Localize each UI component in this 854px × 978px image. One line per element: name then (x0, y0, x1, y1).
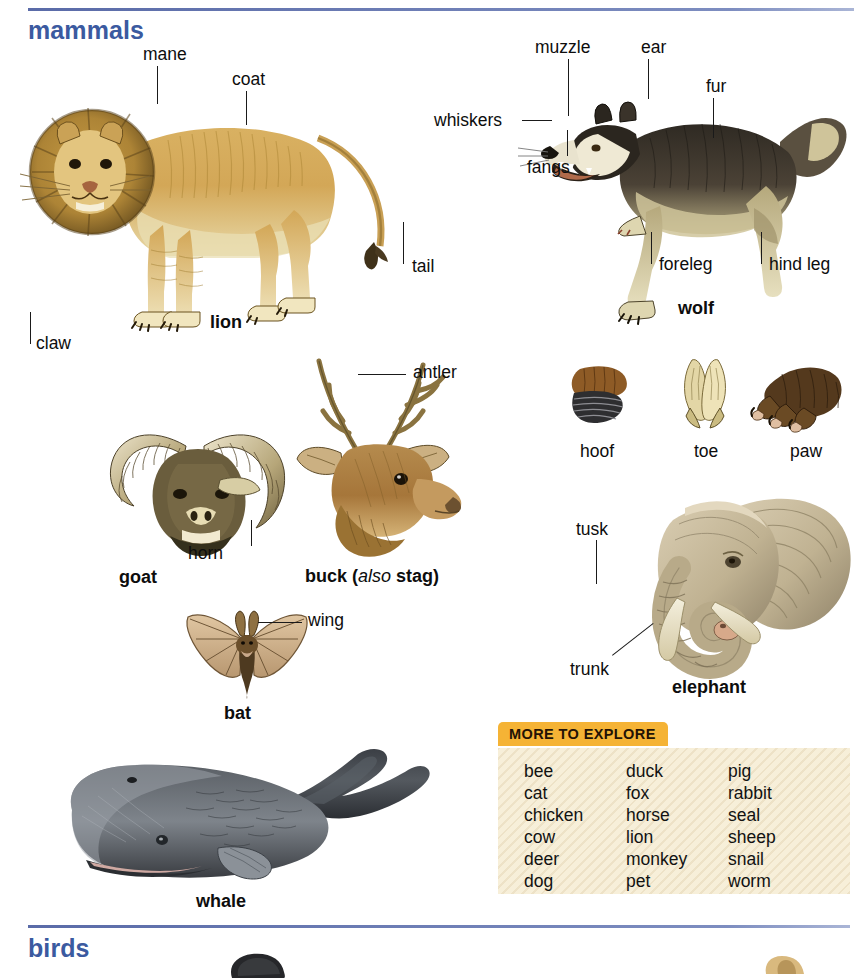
label-wing: wing (308, 612, 344, 630)
more-item[interactable]: pet (626, 870, 728, 892)
lion-illustration (18, 60, 398, 340)
bird-illustration-partial (222, 952, 292, 978)
label-mane: mane (143, 46, 187, 64)
leader-coat (246, 91, 247, 125)
bird-illustration-partial-2 (760, 950, 810, 974)
caption-elephant: elephant (672, 678, 746, 696)
leader-muzzle (568, 59, 569, 116)
more-item[interactable]: duck (626, 760, 728, 782)
more-to-explore-panel: MORE TO EXPLORE bee cat chicken cow deer… (498, 722, 850, 894)
label-muzzle: muzzle (535, 39, 590, 57)
label-foreleg: foreleg (659, 256, 713, 274)
caption-toe: toe (694, 443, 718, 461)
hoof-illustration (560, 363, 636, 429)
leader-antler (358, 374, 406, 375)
more-item[interactable]: worm (728, 870, 848, 892)
leader-foreleg (651, 232, 652, 264)
leader-wing (258, 622, 302, 623)
leader-hind-leg (761, 232, 762, 264)
caption-wolf: wolf (678, 299, 714, 317)
caption-buck-also: also (358, 566, 391, 586)
label-fur: fur (706, 78, 726, 96)
leader-horn (251, 520, 252, 546)
more-item[interactable]: cow (524, 826, 626, 848)
leader-whiskers (522, 120, 552, 121)
label-antler: antler (413, 364, 457, 382)
more-column-1: bee cat chicken cow deer dog (524, 760, 626, 894)
more-item[interactable]: seal (728, 804, 848, 826)
caption-whale: whale (196, 892, 246, 910)
more-item[interactable]: fox (626, 782, 728, 804)
leader-tail (403, 222, 404, 264)
more-item[interactable]: bee (524, 760, 626, 782)
label-tail: tail (412, 258, 434, 276)
caption-bat: bat (224, 704, 251, 722)
section-heading-birds: birds (28, 934, 90, 963)
more-item[interactable]: chicken (524, 804, 626, 826)
more-item[interactable]: lion (626, 826, 728, 848)
more-item[interactable]: horse (626, 804, 728, 826)
whale-illustration (36, 752, 456, 892)
leader-tusk (596, 540, 597, 584)
more-item[interactable]: dog (524, 870, 626, 892)
caption-goat: goat (119, 568, 157, 586)
label-tusk: tusk (576, 521, 608, 539)
leader-ear (648, 59, 649, 99)
leader-fur (713, 98, 714, 138)
caption-lion: lion (210, 313, 242, 331)
label-ear: ear (641, 39, 666, 57)
section-divider-bottom (28, 925, 850, 928)
more-item[interactable]: snail (728, 848, 848, 870)
more-item[interactable]: deer (524, 848, 626, 870)
label-claw: claw (36, 335, 71, 353)
more-column-2: duck fox horse lion monkey pet (626, 760, 728, 894)
leader-fangs (567, 130, 568, 156)
section-heading-mammals: mammals (28, 16, 144, 45)
more-item[interactable]: pig (728, 760, 848, 782)
caption-buck-main: buck (305, 566, 347, 586)
buck-illustration (285, 355, 475, 555)
caption-buck-alt: stag (396, 566, 433, 586)
caption-paw: paw (790, 443, 822, 461)
label-fangs: fangs (527, 159, 570, 177)
more-item[interactable]: monkey (626, 848, 728, 870)
more-item[interactable]: sheep (728, 826, 848, 848)
elephant-illustration (615, 486, 854, 686)
wolf-illustration (540, 68, 854, 318)
label-trunk: trunk (570, 661, 609, 679)
goat-illustration (108, 418, 288, 558)
more-column-3: pig rabbit seal sheep snail worm (728, 760, 830, 894)
label-hind-leg: hind leg (769, 256, 830, 274)
label-whiskers: whiskers (434, 112, 502, 130)
leader-mane (157, 66, 158, 104)
paw-illustration (752, 360, 844, 430)
caption-hoof: hoof (580, 443, 614, 461)
more-item[interactable]: cat (524, 782, 626, 804)
more-to-explore-list: bee cat chicken cow deer dog duck fox ho… (498, 748, 850, 894)
label-coat: coat (232, 71, 265, 89)
section-divider-top (28, 8, 854, 11)
caption-buck: buck (also stag) (305, 567, 439, 585)
leader-claw (30, 312, 31, 344)
more-item[interactable]: rabbit (728, 782, 848, 804)
more-to-explore-title: MORE TO EXPLORE (498, 722, 668, 746)
bat-illustration (184, 605, 310, 701)
toe-illustration (668, 358, 740, 430)
label-horn: horn (188, 545, 223, 563)
